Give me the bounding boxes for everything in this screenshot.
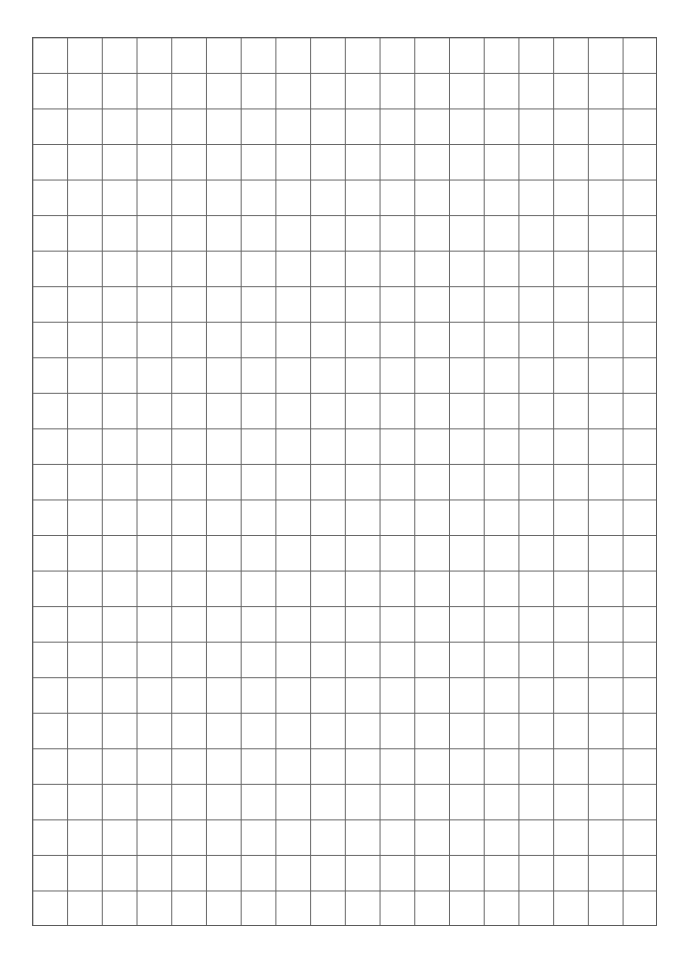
graph-paper-grid [32,37,657,926]
